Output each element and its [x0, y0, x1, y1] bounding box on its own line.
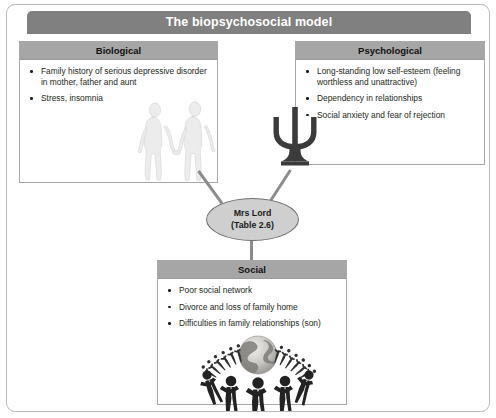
panel-biological-heading: Biological	[20, 42, 217, 60]
list-item: Long-standing low self-esteem (feeling w…	[303, 66, 477, 87]
list-item: Poor social network	[165, 285, 339, 296]
panel-social-body: Poor social network Divorce and loss of …	[158, 279, 346, 339]
panel-biological-list: Family history of serious depressive dis…	[27, 66, 210, 104]
central-node-mrs-lord: Mrs Lord (Table 2.6)	[206, 198, 299, 241]
list-item: Family history of serious depressive dis…	[27, 66, 210, 87]
list-item: Stress, insomnia	[27, 93, 210, 104]
panel-psychological-list: Long-standing low self-esteem (feeling w…	[303, 66, 477, 120]
panel-social-heading: Social	[158, 261, 346, 279]
panel-social-list: Poor social network Divorce and loss of …	[165, 285, 339, 329]
panel-social: Social Poor social network Divorce and l…	[157, 260, 347, 405]
connector-center-to-social	[250, 238, 253, 262]
list-item: Dependency in relationships	[303, 93, 477, 104]
panel-psychological-body: Long-standing low self-esteem (feeling w…	[296, 60, 484, 130]
central-node-line1: Mrs Lord	[207, 208, 298, 220]
list-item: Difficulties in family relationships (so…	[165, 318, 339, 329]
central-node-line2: (Table 2.6)	[207, 220, 298, 232]
panel-psychological-heading: Psychological	[296, 42, 484, 60]
panel-biological: Biological Family history of serious dep…	[19, 41, 218, 183]
figure-title: The biopsychosocial model	[27, 11, 471, 34]
biopsychosocial-figure: The biopsychosocial model Biological Fam…	[6, 4, 490, 412]
panel-biological-body: Family history of serious depressive dis…	[20, 60, 217, 114]
list-item: Social anxiety and fear of rejection	[303, 110, 477, 121]
panel-psychological: Psychological Long-standing low self-est…	[295, 41, 485, 165]
list-item: Divorce and loss of family home	[165, 302, 339, 313]
